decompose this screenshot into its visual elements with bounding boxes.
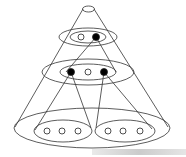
hollow-node-level-3-left	[59, 128, 65, 134]
connector-line	[96, 72, 104, 128]
filled-node-level-2	[101, 69, 108, 76]
hollow-node-level-3-left	[75, 128, 81, 134]
cone-side-right	[94, 9, 168, 127]
connector-line	[71, 72, 91, 128]
level-1-group	[70, 31, 106, 43]
cone-side-left	[15, 9, 83, 127]
connector-line	[96, 37, 116, 72]
hollow-node-level-2	[85, 69, 91, 75]
hollow-node-level-3-right	[137, 128, 143, 134]
cone-hierarchy-diagram	[0, 0, 186, 157]
filled-node-level-1	[93, 34, 100, 41]
watermark	[92, 149, 186, 155]
hollow-node-level-3-left	[44, 128, 50, 134]
level-3-outer-ring	[14, 108, 170, 148]
connector-line	[104, 72, 152, 129]
filled-node-level-2	[68, 69, 75, 76]
hollow-node-level-3-right	[120, 128, 126, 134]
cone-apex	[83, 6, 95, 12]
hollow-node-level-3-right	[105, 128, 111, 134]
hollow-node-level-1	[78, 34, 84, 40]
